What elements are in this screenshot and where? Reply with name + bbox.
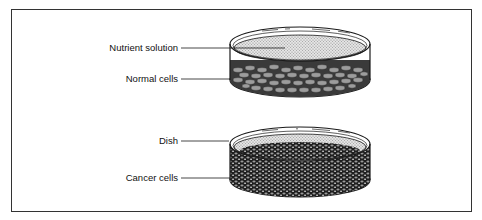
- label-normal-cells: Normal cells: [126, 74, 178, 84]
- label-dish: Dish: [159, 136, 178, 146]
- cancer-cells-dish: [228, 127, 373, 200]
- label-nutrient-solution: Nutrient solution: [109, 43, 178, 53]
- label-cancer-cells: Cancer cells: [126, 173, 178, 183]
- normal-cells-layer: [228, 60, 373, 100]
- petri-dish-illustration: [0, 0, 482, 220]
- normal-cells-dish: [228, 27, 373, 100]
